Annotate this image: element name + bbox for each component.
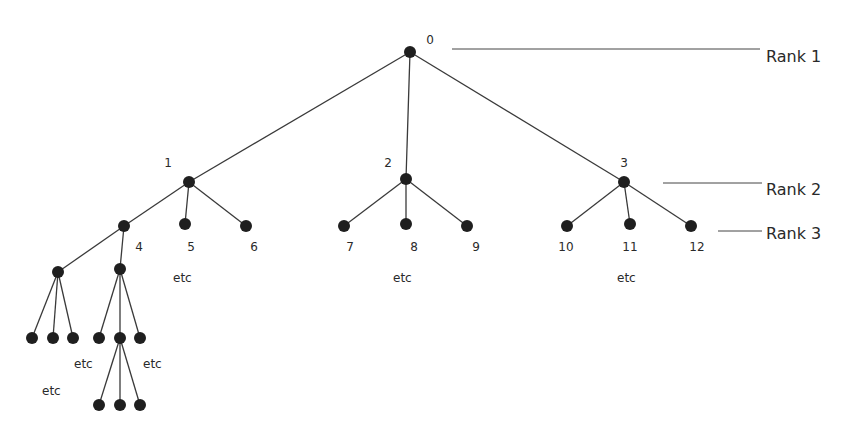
etc-label: etc: [393, 271, 412, 285]
tree-node: [338, 220, 350, 232]
node-label: 2: [384, 156, 392, 170]
etc-label: etc: [173, 271, 192, 285]
tree-edge: [189, 182, 246, 226]
node-labels: 0123456789101112: [135, 33, 704, 254]
tree-node: [67, 332, 79, 344]
etc-label: etc: [42, 384, 61, 398]
node-label: 10: [558, 240, 573, 254]
tree-edges: [32, 52, 691, 405]
node-label: 6: [250, 240, 258, 254]
node-label: 4: [135, 240, 143, 254]
tree-node: [52, 266, 64, 278]
tree-node: [461, 220, 473, 232]
node-label: 1: [164, 156, 172, 170]
etc-labels: etcetcetcetcetcetc: [42, 271, 636, 398]
tree-node: [404, 46, 416, 58]
tree-node: [134, 332, 146, 344]
tree-edge: [120, 226, 124, 269]
tree-edge: [120, 338, 140, 405]
tree-nodes: [26, 46, 697, 411]
tree-node: [183, 176, 195, 188]
tree-edge: [567, 182, 624, 226]
tree-edge: [624, 182, 691, 226]
tree-node: [26, 332, 38, 344]
rank-label: Rank 2: [766, 180, 821, 199]
tree-edge: [189, 52, 410, 182]
tree-edge: [344, 179, 406, 226]
tree-edge: [410, 52, 624, 182]
node-label: 12: [689, 240, 704, 254]
tree-node: [561, 220, 573, 232]
tree-node: [118, 220, 130, 232]
tree-node: [93, 332, 105, 344]
node-label: 7: [346, 240, 354, 254]
etc-label: etc: [617, 271, 636, 285]
etc-label: etc: [143, 357, 162, 371]
node-label: 8: [410, 240, 418, 254]
tree-edge: [624, 182, 630, 224]
tree-edge: [406, 52, 410, 179]
tree-node: [114, 399, 126, 411]
rank-legend: Rank 1Rank 2Rank 3: [452, 47, 821, 243]
tree-diagram: 0123456789101112 etcetcetcetcetcetc Rank…: [0, 0, 857, 441]
etc-label: etc: [74, 357, 93, 371]
tree-node: [179, 218, 191, 230]
tree-node: [400, 218, 412, 230]
node-label: 11: [622, 240, 637, 254]
tree-edge: [99, 338, 120, 405]
rank-label: Rank 3: [766, 224, 821, 243]
rank-label: Rank 1: [766, 47, 821, 66]
tree-edge: [99, 269, 120, 338]
node-label: 9: [472, 240, 480, 254]
node-label: 5: [187, 240, 195, 254]
tree-node: [618, 176, 630, 188]
tree-node: [93, 399, 105, 411]
tree-edge: [120, 269, 140, 338]
tree-edge: [406, 179, 467, 226]
tree-node: [400, 173, 412, 185]
tree-edge: [124, 182, 189, 226]
node-label: 3: [620, 156, 628, 170]
node-label: 0: [426, 33, 434, 47]
tree-edge: [185, 182, 189, 224]
tree-node: [47, 332, 59, 344]
tree-node: [685, 220, 697, 232]
tree-node: [240, 220, 252, 232]
tree-node: [624, 218, 636, 230]
tree-node: [114, 332, 126, 344]
tree-node: [114, 263, 126, 275]
tree-edge: [58, 226, 124, 272]
tree-node: [134, 399, 146, 411]
tree-edge: [58, 272, 73, 338]
